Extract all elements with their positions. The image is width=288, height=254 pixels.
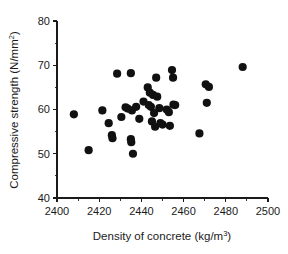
scatter-chart-figure: 4050607080 240024202440246024802500 Dens… <box>0 0 288 254</box>
data-point <box>127 138 135 146</box>
data-point <box>129 150 137 158</box>
plot-canvas: 4050607080 240024202440246024802500 Dens… <box>0 0 288 254</box>
data-point <box>117 113 125 121</box>
y-tick-label: 40 <box>38 192 50 204</box>
x-tick-label: 2480 <box>214 205 238 217</box>
data-point <box>171 101 179 109</box>
data-point <box>105 119 113 127</box>
data-point <box>153 93 161 101</box>
x-tick-label: 2440 <box>129 205 153 217</box>
data-point <box>113 70 121 78</box>
data-point <box>155 104 163 112</box>
x-tick-label: 2420 <box>87 205 111 217</box>
y-axis-title: Compressive strength (N/mm2) <box>7 31 20 189</box>
x-axis-title: Density of concrete (kg/m3) <box>93 229 232 242</box>
data-point <box>195 129 203 137</box>
data-point <box>166 122 174 130</box>
data-points <box>70 63 247 158</box>
y-tick-label: 50 <box>38 148 50 160</box>
data-point <box>70 110 78 118</box>
x-tick-label: 2460 <box>171 205 195 217</box>
data-point <box>127 69 135 77</box>
data-point <box>205 83 213 91</box>
data-point <box>169 74 177 82</box>
x-axis-tick-labels: 240024202440246024802500 <box>45 205 280 217</box>
data-point <box>108 134 116 142</box>
data-point <box>203 99 211 107</box>
data-point <box>165 108 173 116</box>
y-axis-ticks <box>53 21 57 198</box>
data-point <box>98 106 106 114</box>
y-tick-label: 70 <box>38 59 50 71</box>
x-axis-ticks <box>57 198 268 202</box>
data-point <box>135 115 143 123</box>
x-tick-label: 2400 <box>45 205 69 217</box>
data-point <box>132 103 140 111</box>
data-point <box>158 120 166 128</box>
data-point <box>239 63 247 71</box>
data-point <box>152 74 160 82</box>
data-point <box>85 146 93 154</box>
x-tick-label: 2500 <box>256 205 280 217</box>
y-axis-tick-labels: 4050607080 <box>38 15 50 204</box>
data-point <box>168 66 176 74</box>
y-tick-label: 80 <box>38 15 50 27</box>
y-tick-label: 60 <box>38 103 50 115</box>
